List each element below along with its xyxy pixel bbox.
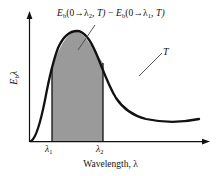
y-axis-label-sub: b: [13, 75, 20, 78]
right-arrow-icon: →: [74, 8, 84, 18]
region-term2-close: , T): [151, 8, 165, 18]
minus-operator: −: [106, 8, 116, 18]
y-axis-label-main: E: [8, 79, 19, 85]
region-term1-close: , T): [92, 8, 106, 18]
tick2-sub: 2: [100, 148, 103, 155]
shaded-area-region: [52, 32, 103, 142]
x-axis-arrowhead: [202, 139, 210, 145]
x-axis-label: Wavelength, λ: [0, 160, 221, 170]
right-arrow-icon-2: →: [133, 8, 143, 18]
y-axis-label-lambda: λ: [8, 71, 19, 75]
blackbody-emissive-power-figure: Eb(0→λ2, T) − Eb(0→λ1, T) T Ebλ Waveleng…: [0, 0, 221, 176]
y-axis-arrowhead: [27, 11, 33, 19]
x-tick-label-lambda1: λ1: [45, 145, 52, 155]
x-tick-label-lambda2: λ2: [96, 145, 103, 155]
curve-label-leader-line: [139, 53, 162, 76]
tick1-sub: 1: [49, 148, 52, 155]
shaded-region-annotation: Eb(0→λ2, T) − Eb(0→λ1, T): [57, 9, 165, 19]
y-axis-label: Ebλ: [9, 57, 20, 99]
curve-label-T: T: [163, 47, 169, 57]
chart-canvas: [0, 0, 221, 176]
